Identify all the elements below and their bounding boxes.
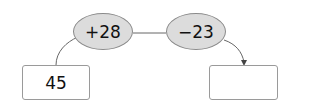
connector-start-to-op1	[56, 37, 78, 65]
result-answer-box[interactable]	[209, 65, 278, 100]
start-value-box: 45	[22, 65, 90, 100]
start-value: 45	[45, 73, 67, 93]
operation-ellipse-2: −23	[166, 13, 226, 50]
operation-ellipse-1: +28	[73, 13, 133, 50]
operation-label-1: +28	[85, 22, 121, 42]
connector-op2-to-result	[224, 40, 244, 62]
operation-label-2: −23	[178, 22, 214, 42]
